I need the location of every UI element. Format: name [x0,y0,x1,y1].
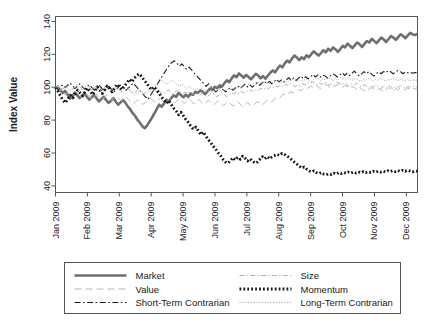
y-tick-label: 80 [43,115,53,125]
x-tick-label: Aug 2009 [274,202,284,241]
legend-label-momentum: Momentum [301,284,349,295]
y-tick-label: 140 [43,14,53,29]
y-axis-title: Index Value [8,77,19,132]
x-tick-label: Jun 2009 [210,202,220,239]
y-tick-label: 100 [43,80,53,95]
x-tick-label: Dec 2009 [401,202,411,241]
legend-label-short-term-contrarian: Short-Term Contrarian [136,297,230,308]
y-tick-label: 60 [43,148,53,158]
x-tick-label: Jul 2009 [242,202,252,236]
x-tick-label: Oct 2009 [338,202,348,239]
x-tick-label: Apr 2009 [146,202,156,239]
x-tick-label: Sep 2009 [306,202,316,241]
chart-figure: 406080100120140Index ValueJan 2009Feb 20… [0,0,436,330]
y-tick-label: 40 [43,181,53,191]
legend-label-market: Market [136,270,165,281]
x-tick-label: Jan 2009 [51,202,61,239]
legend-layer: MarketSizeValueMomentumShort-Term Contra… [65,263,401,314]
x-tick-label: Feb 2009 [82,202,92,240]
index-value-line-chart: 406080100120140Index ValueJan 2009Feb 20… [0,0,436,330]
legend-label-long-term-contrarian: Long-Term Contrarian [301,297,393,308]
x-tick-label: Mar 2009 [114,202,124,240]
x-tick-label: Nov 2009 [369,202,379,241]
legend-label-size: Size [301,270,319,281]
legend-label-value: Value [136,284,160,295]
y-tick-label: 120 [43,47,53,62]
x-tick-label: May 2009 [178,202,188,242]
